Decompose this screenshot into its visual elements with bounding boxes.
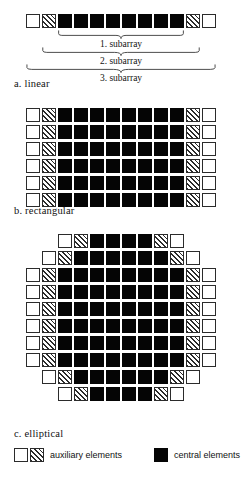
array-cell-black [58,125,72,139]
array-cell-black [170,319,184,333]
array-cell-black [58,268,72,282]
array-cell-black [58,142,72,156]
array-cell-black [90,108,104,122]
array-cell-black [90,319,104,333]
array-cell-hatch [186,14,200,28]
array-cell-white [26,268,40,282]
array-cell-black [154,251,168,265]
array-cell-black [138,14,152,28]
array-cell-black [74,14,88,28]
array-cell-black [106,234,120,248]
array-cell-black [106,370,120,384]
array-row [0,353,242,367]
array-cell-black [138,319,152,333]
array-row [0,319,242,333]
caption-rectangular: b. rectangular [14,205,75,216]
array-cell-black [154,302,168,316]
array-cell-black [170,108,184,122]
array-cell-hatch [170,251,184,265]
array-cell-hatch [74,234,88,248]
array-cell-black [74,285,88,299]
subarray-brackets: 1. subarray 2. subarray 3. subarray [0,30,242,78]
array-cell-black [122,159,136,173]
array-cell-black [154,125,168,139]
array-cell-black [154,285,168,299]
array-cell-black [58,14,72,28]
array-cell-hatch [186,319,200,333]
array-cell-hatch [154,387,168,401]
array-cell-black [106,125,120,139]
array-cell-black [122,370,136,384]
array-cell-black [106,193,120,207]
array-cell-black [74,370,88,384]
linear-array [0,14,242,28]
array-cell-hatch [186,336,200,350]
array-cell-white [42,251,56,265]
array-cell-hatch [42,353,56,367]
array-cell-hatch [58,251,72,265]
array-cell-white [58,387,72,401]
array-cell-black [106,251,120,265]
array-cell-white [202,108,216,122]
array-cell-black [138,251,152,265]
array-cell-black [170,285,184,299]
array-cell-hatch [186,142,200,156]
array-row [0,268,242,282]
array-cell-black [106,142,120,156]
array-cell-white [26,285,40,299]
array-cell-black [58,176,72,190]
array-cell-black [74,125,88,139]
array-cell-black [106,302,120,316]
array-cell-white [202,159,216,173]
array-cell-black [106,336,120,350]
array-cell-hatch [42,108,56,122]
array-row [0,125,242,139]
array-cell-black [122,251,136,265]
legend-central-swatches [154,448,168,462]
array-cell-black [106,319,120,333]
array-cell-white [202,336,216,350]
array-row [0,142,242,156]
array-cell-white [202,142,216,156]
array-cell-black [58,336,72,350]
array-cell-black [154,448,168,462]
array-cell-black [90,193,104,207]
array-cell-black [106,268,120,282]
array-cell-black [138,193,152,207]
subarray-brace-1 [58,30,184,39]
array-cell-white [26,302,40,316]
array-cell-black [170,142,184,156]
array-cell-white [26,353,40,367]
array-cell-black [106,176,120,190]
array-cell-black [122,336,136,350]
array-row [0,176,242,190]
array-cell-black [122,193,136,207]
array-cell-hatch [42,285,56,299]
array-cell-hatch [30,448,44,462]
array-cell-hatch [42,268,56,282]
array-cell-black [138,268,152,282]
array-cell-black [90,353,104,367]
array-cell-black [106,14,120,28]
array-row [0,387,242,401]
rectangular-array [0,108,242,207]
array-cell-black [106,387,120,401]
array-cell-black [122,387,136,401]
array-cell-black [138,159,152,173]
array-cell-black [90,268,104,282]
array-cell-hatch [186,108,200,122]
subarray-label-3: 3. subarray [26,73,216,83]
array-cell-black [170,193,184,207]
array-cell-white [202,193,216,207]
array-cell-black [138,387,152,401]
array-cell-black [154,193,168,207]
array-cell-black [74,353,88,367]
array-cell-black [74,108,88,122]
array-cell-black [90,14,104,28]
array-cell-black [138,142,152,156]
array-cell-black [90,125,104,139]
array-cell-black [74,142,88,156]
array-cell-black [106,108,120,122]
subarray-brace-3 [26,64,216,73]
array-cell-black [74,302,88,316]
